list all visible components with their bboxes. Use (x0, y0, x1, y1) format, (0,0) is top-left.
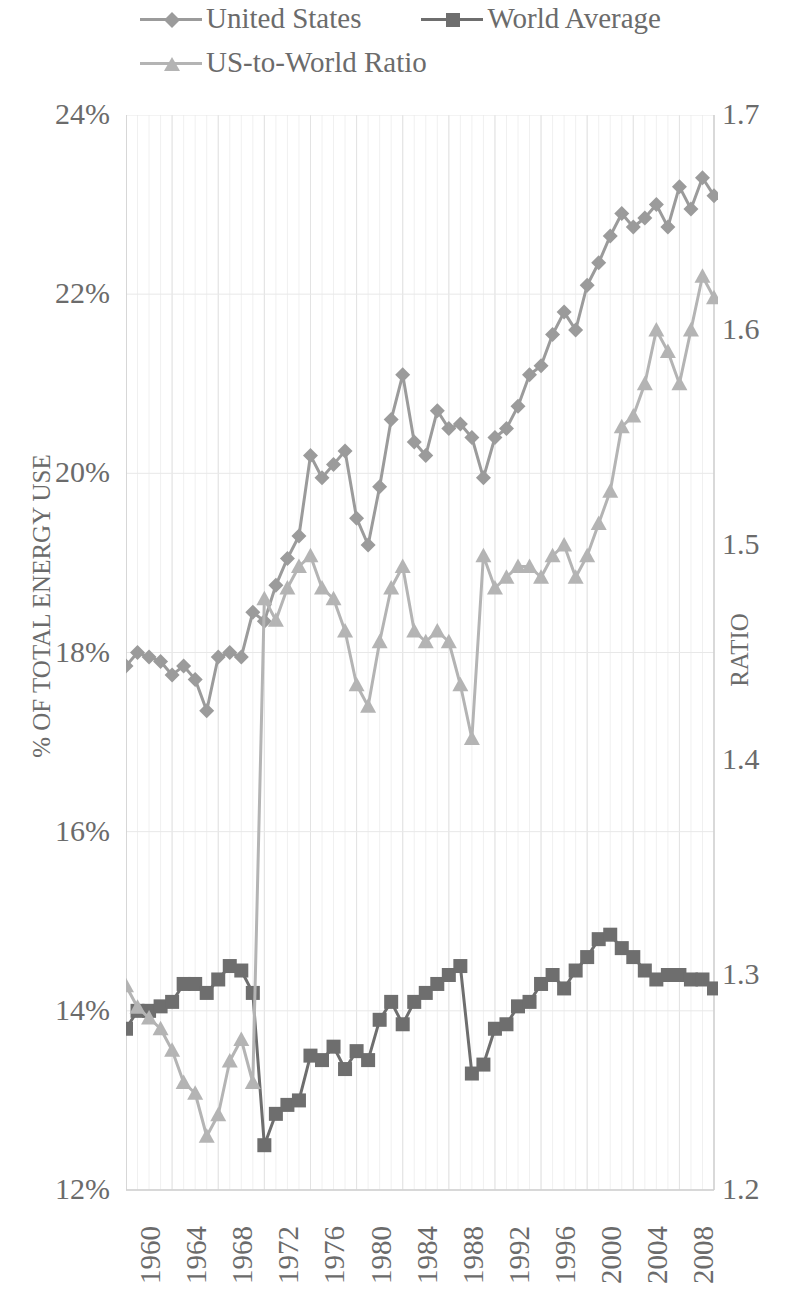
square-data-point (384, 995, 398, 1009)
square-data-point (569, 964, 583, 978)
diamond-data-point (372, 479, 387, 494)
diamond-data-point (349, 511, 364, 526)
triangle-data-point (233, 1032, 249, 1046)
square-data-point (373, 1013, 387, 1027)
triangle-data-point (694, 268, 710, 282)
diamond-data-point (280, 551, 295, 566)
x-axis-tick-label: 1988 (459, 1226, 488, 1284)
diamond-data-point (557, 305, 572, 320)
square-data-point (257, 1138, 271, 1152)
x-axis-tick-label: 1984 (413, 1226, 442, 1284)
x-axis-tick-label: 1992 (505, 1226, 534, 1284)
triangle-data-point (210, 1107, 226, 1121)
triangle-data-point (164, 1042, 180, 1056)
triangle-data-point (176, 1075, 192, 1089)
square-data-point (338, 1062, 352, 1076)
square-data-point (292, 1093, 306, 1107)
triangle-data-point (302, 548, 318, 562)
triangle-data-point (279, 580, 295, 594)
triangle-data-point (671, 376, 687, 390)
triangle-data-point (126, 978, 134, 992)
x-axis-tick-label: 1968 (228, 1226, 257, 1284)
square-data-point (234, 964, 248, 978)
square-data-point (200, 986, 214, 1000)
triangle-data-point (337, 623, 353, 637)
triangle-data-point (372, 634, 388, 648)
square-data-point (603, 928, 617, 942)
square-data-point (557, 981, 571, 995)
series-line (126, 178, 714, 711)
square-data-point (165, 995, 179, 1009)
triangle-data-point (360, 698, 376, 712)
x-axis-tick-label: 2000 (597, 1226, 626, 1284)
diamond-data-point (672, 179, 687, 194)
triangle-data-point (648, 322, 664, 336)
diamond-data-point (695, 170, 710, 185)
chart-root: United States World Average (0, 0, 812, 1314)
triangle-data-point (429, 623, 445, 637)
x-axis-tick-label: 1976 (320, 1226, 349, 1284)
triangle-data-point (579, 548, 595, 562)
diamond-data-point (303, 448, 318, 463)
diamond-data-point (384, 412, 399, 427)
plot-area (126, 115, 714, 1190)
square-data-point (327, 1040, 341, 1054)
diamond-data-point (268, 578, 283, 593)
triangle-data-point (383, 580, 399, 594)
triangle-data-point (349, 677, 365, 691)
triangle-data-point (475, 548, 491, 562)
diamond-data-point (707, 188, 719, 203)
triangle-data-point (406, 623, 422, 637)
diamond-data-point (603, 228, 618, 243)
triangle-data-point (314, 580, 330, 594)
x-axis-tick-label: 2004 (643, 1226, 672, 1284)
x-axis-tick-label: 2008 (689, 1226, 718, 1284)
square-data-point (453, 959, 467, 973)
triangle-data-point (464, 731, 480, 745)
x-axis-tick-label: 1996 (551, 1226, 580, 1284)
diamond-data-point (199, 703, 214, 718)
diamond-data-point (591, 255, 606, 270)
triangle-data-point (568, 569, 584, 583)
square-data-point (476, 1058, 490, 1072)
square-data-point (707, 981, 718, 995)
series-line (126, 935, 714, 1146)
diamond-data-point (291, 529, 306, 544)
triangle-data-point (395, 559, 411, 573)
diamond-data-point (660, 219, 675, 234)
triangle-data-point (683, 322, 699, 336)
triangle-data-point (602, 483, 618, 497)
x-axis-tick-label: 1980 (367, 1226, 396, 1284)
triangle-data-point (222, 1053, 238, 1067)
x-axis-tick-label: 1972 (274, 1226, 303, 1284)
triangle-data-point (199, 1128, 215, 1142)
triangle-data-point (625, 408, 641, 422)
triangle-data-point (660, 344, 676, 358)
x-axis-tick-label: 1960 (136, 1226, 165, 1284)
diamond-data-point (683, 202, 698, 217)
square-data-point (546, 968, 560, 982)
diamond-data-point (395, 367, 410, 382)
triangle-data-point (637, 376, 653, 390)
square-data-point (126, 1022, 133, 1036)
square-data-point (315, 1053, 329, 1067)
square-data-point (626, 950, 640, 964)
square-data-point (523, 995, 537, 1009)
diamond-data-point (580, 278, 595, 293)
triangle-data-point (256, 591, 272, 605)
square-data-point (396, 1017, 410, 1031)
square-data-point (361, 1053, 375, 1067)
triangle-data-point (452, 677, 468, 691)
diamond-data-point (476, 470, 491, 485)
square-data-point (580, 950, 594, 964)
series-us-to-world-ratio (126, 268, 718, 1142)
series-united-states (126, 170, 718, 718)
diamond-data-point (361, 538, 376, 553)
chart-canvas (126, 115, 718, 1194)
diamond-data-point (511, 399, 526, 414)
triangle-data-point (556, 537, 572, 551)
triangle-data-point (268, 612, 284, 626)
square-data-point (246, 986, 260, 1000)
triangle-data-point (591, 516, 607, 530)
square-data-point (499, 1017, 513, 1031)
